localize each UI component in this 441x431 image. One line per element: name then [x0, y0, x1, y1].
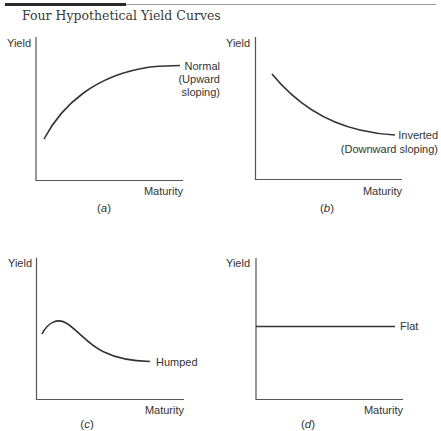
curve-label-line-1: Inverted: [398, 129, 438, 141]
curve-label-line-1: Flat: [400, 320, 418, 332]
panel-b: Yield Inverted (Downward sloping) Maturi…: [226, 37, 438, 214]
normal-curve: [44, 66, 180, 140]
panel-caption: (a): [97, 202, 111, 214]
x-axis-label: Maturity: [364, 404, 404, 416]
y-axis-label: Yield: [7, 37, 31, 49]
x-axis-label: Maturity: [363, 185, 403, 197]
panel-letter: b: [324, 202, 331, 214]
panel-caption: (c): [80, 418, 94, 430]
panel-c: Yield Humped Maturity (c): [8, 257, 198, 430]
curve-label-line-2: (Upward: [178, 73, 220, 85]
axes: [256, 258, 403, 400]
x-axis-label: Maturity: [144, 185, 184, 197]
panel-letter: a: [101, 202, 107, 214]
axes: [256, 37, 403, 180]
y-axis-label: Yield: [226, 257, 250, 269]
humped-curve: [42, 321, 150, 362]
inverted-curve: [272, 74, 395, 135]
panel-caption: (b): [320, 202, 334, 214]
panel-a: Yield Normal (Upward sloping) Maturity (…: [7, 37, 220, 214]
axes: [36, 37, 183, 181]
panel-caption: (d): [301, 418, 315, 430]
y-axis-label: Yield: [8, 257, 32, 269]
y-axis-label: Yield: [226, 37, 250, 49]
panel-d: Yield Flat Maturity (d): [226, 257, 418, 430]
panel-letter: d: [305, 418, 312, 430]
curve-label-line-3: sloping): [181, 86, 220, 98]
panel-letter: c: [84, 418, 90, 430]
axes: [37, 258, 185, 400]
yield-curves-figure: Yield Normal (Upward sloping) Maturity (…: [0, 0, 441, 431]
curve-label-line-1: Normal: [185, 60, 220, 72]
curve-label-line-2: (Downward sloping): [341, 143, 438, 155]
curve-label-line-1: Humped: [156, 356, 198, 368]
x-axis-label: Maturity: [145, 404, 185, 416]
